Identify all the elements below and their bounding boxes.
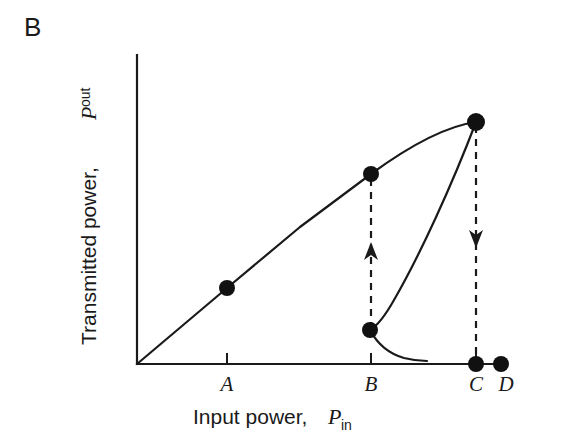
point-c-peak-marker [467, 113, 485, 131]
point-c-axis-marker [468, 356, 484, 372]
point-d-axis-marker [493, 356, 509, 372]
unstable-middle-branch-curve [370, 122, 476, 330]
point-b-lower-marker [362, 322, 378, 338]
bistability-plot: A B C D Input power, P in Transmitted po… [0, 0, 570, 432]
y-axis-title-subscript: out [77, 87, 93, 107]
y-axis-title: Transmitted power, P out [76, 87, 101, 345]
point-a-marker [219, 280, 235, 296]
upper-stable-branch-curve [137, 122, 476, 364]
x-tick-label-b: B [365, 372, 378, 396]
lower-stable-branch-curve [370, 330, 427, 361]
point-b-upper-marker [363, 166, 379, 182]
y-axis-title-prefix: Transmitted power, [77, 167, 100, 345]
x-tick-label-d: D [497, 372, 513, 396]
x-tick-label-a: A [219, 372, 234, 396]
y-axis-title-variable: P [76, 107, 101, 121]
x-axis-title-variable: P [327, 404, 341, 429]
x-axis-title-subscript: in [341, 417, 352, 432]
x-axis-title-prefix: Input power, [193, 405, 307, 428]
figure-panel-b: B A B C D Inpu [0, 0, 570, 432]
x-tick-label-c: C [469, 372, 484, 396]
x-axis-title: Input power, P in [193, 404, 352, 432]
